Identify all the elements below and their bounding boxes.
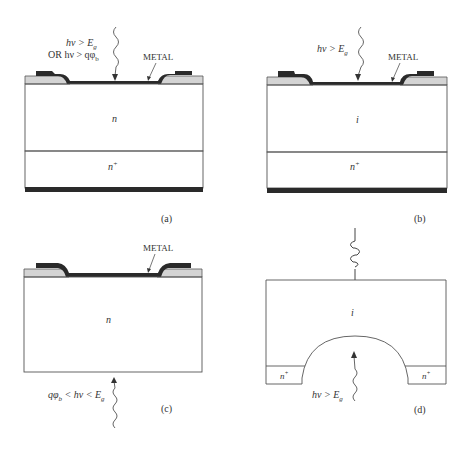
arrow-down-icon [112, 74, 118, 81]
svg-text:n+: n+ [350, 160, 360, 172]
caption-b: (b) [414, 213, 426, 225]
arrow-up-icon [351, 351, 357, 358]
semiconductor-i-region [266, 280, 446, 384]
caption-a: (a) [161, 213, 172, 225]
svg-text:n+: n+ [108, 160, 118, 172]
metal-pointer [149, 63, 156, 78]
svg-text:hν > Eg: hν > Eg [317, 43, 348, 57]
metal-label: METAL [388, 52, 418, 62]
arrow-up-icon [111, 377, 117, 383]
back-contact-metal [267, 188, 447, 193]
region-label-n: n [112, 113, 117, 124]
caption-c: (c) [161, 403, 172, 415]
svg-text:OR hν > qφb: OR hν > qφb [48, 49, 99, 63]
svg-text:qφb < hν < Eg: qφb < hν < Eg [48, 389, 105, 403]
arrow-down-icon [355, 74, 361, 81]
svg-text:n+: n+ [280, 370, 289, 381]
back-contact-metal [25, 187, 203, 192]
metal-label: METAL [143, 243, 173, 253]
svg-text:hν > Eg: hν > Eg [312, 389, 343, 403]
light-wave-icon [358, 27, 364, 76]
svg-text:n+: n+ [422, 370, 431, 381]
light-label-line2: OR hν > qφ [48, 49, 96, 60]
coil-icon [351, 241, 360, 267]
light-label: qφ [48, 389, 59, 400]
semiconductor-n-plus-region [25, 151, 203, 188]
light-label: hν > E [312, 389, 339, 400]
panel-c: METAL n qφb < hν < Eg (c) [24, 243, 202, 428]
region-label-i: i [351, 307, 354, 318]
panel-a: hν > Eg OR hν > qφb METAL n n+ (a) [25, 27, 203, 225]
metal-pointer [393, 63, 400, 79]
oxide-left [24, 269, 69, 277]
semiconductor-n-region [24, 277, 202, 372]
light-wave-icon [113, 381, 117, 428]
oxide-right [400, 77, 447, 85]
light-label-line1: hν > E [66, 37, 93, 48]
photodetector-diagram: hν > Eg OR hν > qφb METAL n n+ (a) hν > … [0, 0, 470, 449]
semiconductor-n-plus-region [267, 152, 447, 188]
light-wave-icon [114, 27, 119, 76]
metal-label: METAL [143, 52, 173, 62]
region-label-n: n [106, 314, 111, 325]
panel-b: hν > Eg METAL i n+ (b) [267, 27, 447, 225]
caption-d: (d) [414, 404, 426, 416]
light-wave-icon [353, 356, 357, 401]
metal-pointer [149, 254, 155, 270]
light-label: hν > E [317, 43, 344, 54]
panel-d: i n+ n+ hν > Eg (d) [266, 228, 446, 416]
region-label-i: i [356, 114, 359, 125]
